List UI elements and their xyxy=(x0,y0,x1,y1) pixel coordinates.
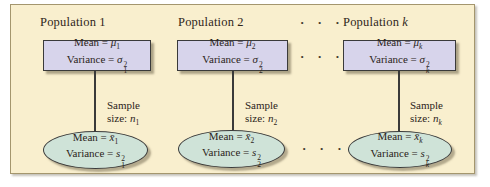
population-title-index: 1 xyxy=(99,15,105,29)
population-title-1: Population1 xyxy=(40,15,106,30)
ellipsis-dots-bottom: · · · xyxy=(302,141,347,157)
sample-size-label-2: Sample size: n2 xyxy=(245,99,278,129)
connector-line-1 xyxy=(94,71,96,131)
population-title-text: Population xyxy=(343,15,399,29)
sample-mean-line: Mean = x̄1 xyxy=(73,131,118,148)
connector-line-2 xyxy=(232,71,234,130)
population-title-index: k xyxy=(402,15,408,29)
sample-size-label-k: Sample size: nk xyxy=(410,99,443,129)
sample-ellipse-1: Mean = x̄1 Variance = s21 xyxy=(43,131,148,169)
figure-stage: Population1 Mean = μ1 Variance = σ21 Sam… xyxy=(0,0,490,187)
sample-ellipse-k: Mean = x̄k Variance = s2k xyxy=(348,131,452,168)
ellipsis-dots-middle: · · · xyxy=(300,49,345,65)
sample-ellipse-2: Mean = x̄2 Variance = s22 xyxy=(178,130,285,168)
population-title-text: Population xyxy=(40,15,96,29)
population-mean-line: Mean = μ1 xyxy=(74,36,120,53)
population-title-index: 2 xyxy=(237,15,243,29)
population-box-1: Mean = μ1 Variance = σ21 xyxy=(43,40,151,71)
population-mean-line: Mean = μk xyxy=(377,36,423,53)
sample-mean-line: Mean = x̄k xyxy=(378,130,423,147)
population-variance-line: Variance = σ21 xyxy=(67,53,127,75)
sample-mean-line: Mean = x̄2 xyxy=(209,130,254,147)
population-title-k: Populationk xyxy=(343,15,408,30)
population-title-text: Population xyxy=(178,15,234,29)
population-variance-line: Variance = σ2k xyxy=(369,53,429,75)
sample-variance-line: Variance = s2k xyxy=(370,147,429,169)
population-box-2: Mean = μ2 Variance = σ22 xyxy=(177,40,288,71)
sample-size-label-1: Sample size: n1 xyxy=(107,99,140,129)
population-box-k: Mean = μk Variance = σ2k xyxy=(343,40,456,71)
connector-line-k xyxy=(398,71,400,131)
sample-variance-line: Variance = s21 xyxy=(66,147,125,169)
population-mean-line: Mean = μ2 xyxy=(209,36,255,53)
sample-variance-line: Variance = s22 xyxy=(202,146,261,168)
population-title-2: Population2 xyxy=(178,15,244,30)
ellipsis-dots-top: · · · xyxy=(300,15,345,31)
